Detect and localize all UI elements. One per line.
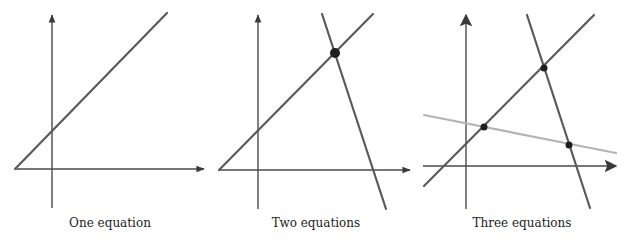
intersection-point-2 [481, 124, 488, 131]
caption-one-equation: One equation [69, 216, 151, 230]
equation-line-3 [424, 115, 616, 153]
equation-line-2 [527, 15, 590, 208]
intersection-point-1 [330, 48, 340, 58]
caption-two-equations: Two equations [272, 216, 360, 230]
caption-three-equations: Three equations [473, 216, 572, 230]
panel-one-equation [15, 13, 204, 208]
panel-three-equations [423, 15, 616, 209]
equation-line-1 [15, 13, 167, 169]
intersection-point-1 [541, 65, 548, 72]
intersection-point-3 [566, 142, 573, 149]
equation-line-2 [322, 14, 386, 209]
equation-line-1 [219, 14, 373, 170]
equation-line-1 [424, 15, 594, 186]
linear-systems-figure [0, 0, 629, 244]
panel-two-equations [219, 14, 410, 209]
